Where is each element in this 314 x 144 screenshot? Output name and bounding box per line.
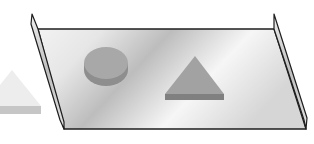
triangle-side (165, 94, 224, 100)
outside-triangle-top (0, 70, 41, 106)
disk (84, 47, 128, 86)
outside-triangle-side (0, 106, 41, 114)
plate-diagram (0, 0, 314, 144)
disk-top (84, 47, 128, 79)
outside-triangle-prism (0, 70, 41, 114)
plate (38, 29, 306, 129)
